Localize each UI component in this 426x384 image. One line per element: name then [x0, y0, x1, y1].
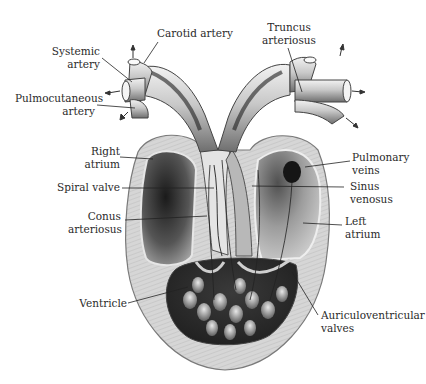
label-systemic-artery: Systemic artery — [48, 45, 100, 70]
label-left-atrium: Left atrium — [345, 215, 381, 240]
label-right-atrium: Right atrium — [80, 145, 120, 170]
label-truncus-arteriosus: Truncus arteriosus — [255, 21, 323, 46]
right-atrium-chamber — [141, 151, 196, 265]
pulmonary-veins-opening — [283, 161, 301, 183]
carotid-artery-right-opening — [304, 57, 316, 63]
carotid-artery-left-opening — [128, 59, 140, 65]
leader-systemic-artery — [102, 58, 132, 82]
label-ventricle: Ventricle — [70, 297, 127, 310]
systemic-artery-left-opening — [122, 81, 130, 101]
leader-carotid-artery — [144, 42, 158, 63]
label-carotid-artery: Carotid artery — [157, 27, 233, 40]
label-conus-arteriosus: Conus arteriosus — [68, 210, 121, 235]
label-sinus-venosus: Sinus venosus — [350, 180, 393, 205]
right-arterial-branches — [290, 57, 351, 124]
label-pulmocutaneous-artery: Pulmocutaneous artery — [15, 92, 95, 117]
systemic-artery-right-opening — [343, 80, 351, 102]
label-spiral-valve: Spiral valve — [50, 181, 120, 194]
left-arterial-branches — [122, 59, 152, 118]
leader-pulmocutaneous-artery — [97, 105, 135, 108]
label-auriculoventricular-valves: Auriculoventricular valves — [321, 309, 425, 334]
label-pulmonary-veins: Pulmonary veins — [352, 151, 409, 176]
